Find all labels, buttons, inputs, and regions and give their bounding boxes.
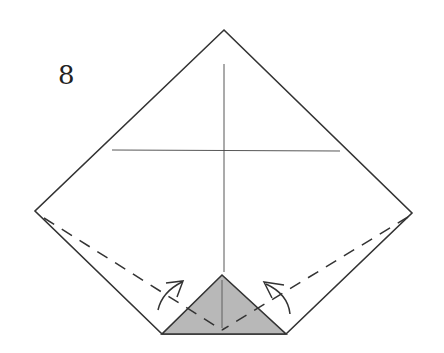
- step-number: 8: [58, 62, 75, 88]
- diagram-canvas: [0, 0, 444, 353]
- origami-diagram: 8: [0, 0, 444, 353]
